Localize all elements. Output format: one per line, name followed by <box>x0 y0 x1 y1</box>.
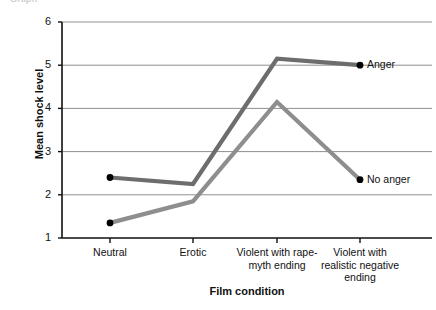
y-axis-title: Mean shock level <box>33 44 45 184</box>
y-tick-label-2: 2 <box>31 189 51 200</box>
series-label-no-anger: No anger <box>367 173 410 185</box>
x-tick-label-1: Erotic <box>154 246 232 259</box>
x-axis-title: Film condition <box>62 285 432 297</box>
marker-1-3 <box>357 176 364 183</box>
series-lines-group <box>110 59 360 223</box>
figure-container: Graph 123456 NeutralEroticViolent with r… <box>0 0 436 310</box>
axes-group <box>62 22 432 238</box>
gridlines-group <box>62 22 432 195</box>
marker-0-0 <box>107 174 114 181</box>
series-label-anger: Anger <box>367 58 395 70</box>
y-tick-label-6: 6 <box>31 16 51 27</box>
x-tick-label-0: Neutral <box>71 246 149 259</box>
series-line-0 <box>110 59 360 184</box>
marker-1-0 <box>107 219 114 226</box>
y-tick-label-1: 1 <box>31 232 51 243</box>
x-tick-label-3: Violent with realistic negative ending <box>306 246 414 284</box>
marker-0-3 <box>357 62 364 69</box>
